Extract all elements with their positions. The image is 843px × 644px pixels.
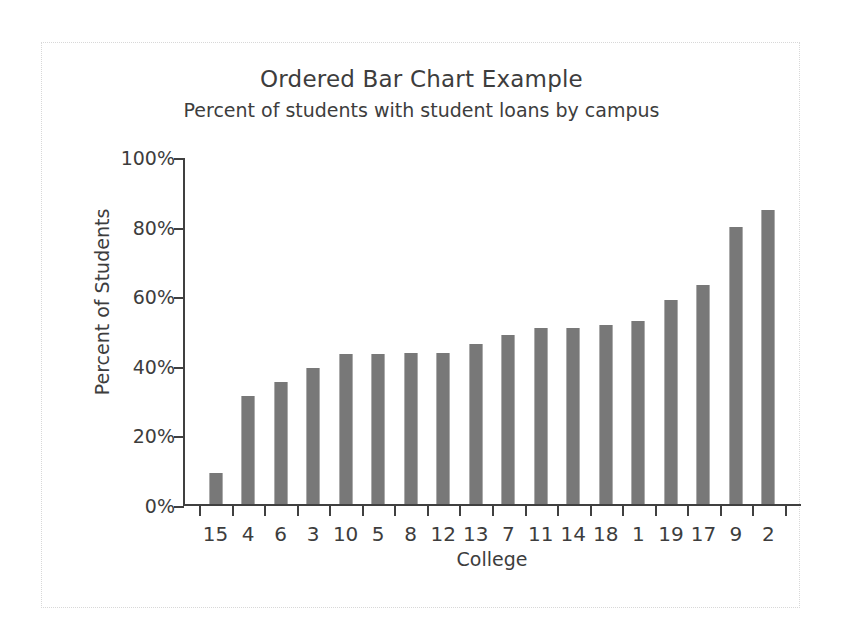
x-tick-mark	[557, 506, 559, 516]
x-tick-label: 4	[242, 522, 255, 546]
y-tick-label: 0%	[145, 495, 175, 517]
y-tick-label: 80%	[133, 217, 175, 239]
x-tick-mark	[622, 506, 624, 516]
x-tick-mark	[590, 506, 592, 516]
bar	[632, 321, 645, 504]
bar	[534, 328, 547, 504]
plot-area: 0%20%40%60%80%100% 154631058121371114181…	[183, 156, 801, 506]
x-tick-label: 2	[762, 522, 775, 546]
x-tick-label: 9	[730, 522, 743, 546]
y-axis-line	[183, 158, 185, 506]
y-tick-mark	[174, 436, 184, 438]
y-tick-mark	[174, 506, 184, 508]
bar	[469, 344, 482, 504]
x-tick-mark	[525, 506, 527, 516]
y-tick-mark	[174, 158, 184, 160]
x-tick-mark	[297, 506, 299, 516]
x-tick-mark	[459, 506, 461, 516]
x-tick-label: 13	[463, 522, 488, 546]
chart-subtitle: Percent of students with student loans b…	[42, 99, 801, 121]
x-tick-label: 14	[561, 522, 586, 546]
bar	[567, 328, 580, 504]
bar	[729, 227, 742, 504]
bar	[502, 335, 515, 504]
x-tick-label: 6	[274, 522, 287, 546]
x-axis-title: College	[183, 548, 801, 570]
y-tick-label: 60%	[133, 286, 175, 308]
x-tick-mark	[785, 506, 787, 516]
x-tick-label: 18	[593, 522, 618, 546]
y-axis-title: Percent of Students	[91, 202, 113, 402]
x-tick-label: 15	[203, 522, 228, 546]
x-tick-label: 5	[372, 522, 385, 546]
bar	[437, 353, 450, 504]
x-tick-mark	[199, 506, 201, 516]
x-tick-mark	[232, 506, 234, 516]
y-tick-label: 20%	[133, 425, 175, 447]
x-tick-label: 8	[404, 522, 417, 546]
bar	[242, 396, 255, 504]
x-tick-mark	[752, 506, 754, 516]
x-tick-mark	[720, 506, 722, 516]
chart-title: Ordered Bar Chart Example	[42, 66, 801, 92]
x-tick-label: 19	[658, 522, 683, 546]
x-tick-mark	[655, 506, 657, 516]
figure-frame: Ordered Bar Chart Example Percent of stu…	[41, 42, 800, 608]
y-tick-label: 40%	[133, 356, 175, 378]
y-tick-mark	[174, 228, 184, 230]
bar	[404, 353, 417, 504]
x-tick-label: 1	[632, 522, 645, 546]
bar	[339, 354, 352, 504]
x-tick-label: 7	[502, 522, 515, 546]
x-tick-mark	[427, 506, 429, 516]
bar	[664, 300, 677, 504]
bar	[697, 285, 710, 504]
x-tick-label: 3	[307, 522, 320, 546]
bar	[372, 354, 385, 504]
x-tick-label: 11	[528, 522, 553, 546]
bar	[599, 325, 612, 504]
x-tick-mark	[687, 506, 689, 516]
x-tick-label: 10	[333, 522, 358, 546]
bar	[209, 473, 222, 504]
bar	[307, 368, 320, 504]
y-tick-mark	[174, 297, 184, 299]
y-tick-label: 100%	[121, 147, 175, 169]
x-tick-mark	[492, 506, 494, 516]
x-tick-mark	[264, 506, 266, 516]
x-tick-mark	[329, 506, 331, 516]
x-tick-mark	[394, 506, 396, 516]
y-tick-mark	[174, 367, 184, 369]
x-tick-label: 17	[691, 522, 716, 546]
bar	[274, 382, 287, 504]
x-tick-mark	[362, 506, 364, 516]
x-tick-label: 12	[430, 522, 455, 546]
bar	[762, 210, 775, 504]
